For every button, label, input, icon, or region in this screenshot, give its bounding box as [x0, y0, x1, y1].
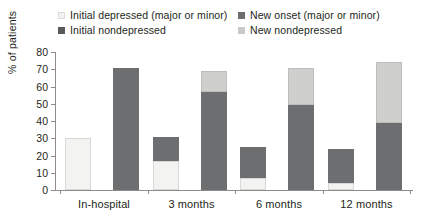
bar-segment-initial-nondepressed — [376, 123, 402, 190]
legend-column-right: New onset (major or minor) New nondepres… — [238, 9, 380, 39]
legend-label-new-onset: New onset (major or minor) — [250, 10, 380, 21]
bar-group — [326, 52, 408, 190]
legend-column-left: Initial depressed (major or minor) Initi… — [58, 9, 227, 39]
legend-label-new-nondepressed: New nondepressed — [250, 25, 342, 36]
chart-plot-area: 01020304050607080 In-hospital3 months6 m… — [55, 52, 413, 190]
legend-item-new-nondepressed: New nondepressed — [238, 24, 380, 37]
bar-segment-initial-nondepressed — [113, 68, 139, 190]
bar-segment-initial-depressed — [240, 178, 266, 190]
bar-depressed — [240, 147, 266, 190]
bar-segment-new-nondepressed — [288, 68, 314, 106]
bar-nondepressed — [376, 62, 402, 190]
bar-segment-initial-depressed — [65, 138, 91, 190]
bar-segment-new-onset — [153, 137, 179, 161]
x-axis-label-3: 12 months — [326, 198, 408, 210]
x-tick-mark — [60, 190, 61, 194]
y-tick-mark — [51, 190, 55, 191]
y-tick-label: 40 — [36, 116, 48, 126]
legend-item-initial-nondepressed: Initial nondepressed — [58, 24, 227, 37]
bar-segment-new-nondepressed — [201, 71, 227, 92]
chart-legend: Initial depressed (major or minor) Initi… — [58, 9, 424, 37]
bar-group — [151, 52, 233, 190]
legend-item-initial-depressed: Initial depressed (major or minor) — [58, 9, 227, 22]
y-tick-label: 70 — [36, 64, 48, 74]
bar-segment-new-nondepressed — [376, 62, 402, 122]
legend-label-initial-nondepressed: Initial nondepressed — [70, 25, 166, 36]
y-tick-mark — [51, 156, 55, 157]
bar-group — [238, 52, 320, 190]
y-tick-label: 50 — [36, 99, 48, 109]
legend-label-initial-depressed: Initial depressed (major or minor) — [70, 10, 227, 21]
x-tick-mark — [410, 190, 411, 194]
y-tick-mark — [51, 69, 55, 70]
bar-group — [63, 52, 145, 190]
x-axis-label-2: 6 months — [238, 198, 320, 210]
bar-segment-initial-depressed — [328, 183, 354, 190]
bar-nondepressed — [201, 71, 227, 190]
bar-nondepressed — [113, 68, 139, 190]
bar-segment-initial-nondepressed — [288, 105, 314, 190]
legend-swatch-new-nondepressed-icon — [238, 27, 245, 34]
bar-segment-initial-nondepressed — [201, 92, 227, 190]
y-tick-label: 10 — [36, 168, 48, 178]
y-tick-mark — [51, 87, 55, 88]
y-tick-label: 20 — [36, 151, 48, 161]
x-tick-mark — [235, 190, 236, 194]
bar-segment-new-onset — [240, 147, 266, 178]
bar-nondepressed — [288, 68, 314, 190]
bar-depressed — [65, 138, 91, 190]
legend-item-new-onset: New onset (major or minor) — [238, 9, 380, 22]
y-axis-title: % of patients — [6, 11, 18, 74]
y-tick-mark — [51, 104, 55, 105]
bar-segment-initial-depressed — [153, 161, 179, 190]
legend-swatch-new-onset-icon — [238, 12, 245, 19]
x-axis-label-0: In-hospital — [63, 198, 145, 210]
bar-depressed — [153, 137, 179, 190]
bar-segment-new-onset — [328, 149, 354, 184]
y-tick-label: 0 — [42, 185, 48, 195]
x-axis-label-1: 3 months — [151, 198, 233, 210]
y-tick-label: 30 — [36, 133, 48, 143]
y-tick-mark — [51, 121, 55, 122]
y-tick-label: 80 — [36, 47, 48, 57]
bar-depressed — [328, 149, 354, 190]
x-axis-line — [55, 190, 413, 191]
y-axis-line — [55, 52, 56, 190]
x-tick-mark — [323, 190, 324, 194]
y-tick-label: 60 — [36, 82, 48, 92]
y-tick-mark — [51, 52, 55, 53]
y-tick-mark — [51, 173, 55, 174]
y-tick-mark — [51, 138, 55, 139]
legend-swatch-initial-nondepressed-icon — [58, 27, 65, 34]
legend-swatch-initial-depressed-icon — [58, 12, 65, 19]
x-tick-mark — [148, 190, 149, 194]
